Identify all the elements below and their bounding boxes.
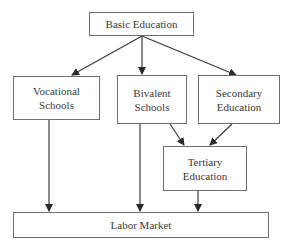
arrow-secondary-to-tertiary — [210, 124, 232, 145]
node-label: Secondary Education — [216, 86, 262, 114]
node-bivalent-schools: Bivalent Schools — [117, 75, 187, 124]
arrow-basic-to-secondary — [142, 36, 236, 75]
arrow-bivalent-to-tertiary — [170, 124, 184, 145]
node-labor-market: Labor Market — [13, 212, 269, 238]
node-secondary-education: Secondary Education — [198, 75, 280, 124]
node-vocational-schools: Vocational Schools — [13, 76, 100, 120]
node-label: Labor Market — [111, 218, 172, 232]
node-label: Bivalent Schools — [133, 86, 170, 114]
node-label: Basic Education — [106, 17, 178, 31]
node-label: Tertiary Education — [183, 155, 228, 183]
node-basic-education: Basic Education — [89, 12, 194, 36]
arrow-basic-to-vocational — [72, 36, 142, 75]
node-label: Vocational Schools — [33, 84, 80, 112]
node-tertiary-education: Tertiary Education — [163, 146, 247, 191]
